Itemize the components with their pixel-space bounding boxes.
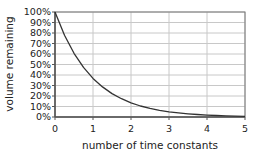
y-tick-label: 60% [20,49,51,59]
y-axis-label: volume remaining [3,4,17,124]
y-tick-label: 90% [20,18,51,28]
y-tick-label: 80% [20,28,51,38]
y-tick-label: 30% [20,81,51,91]
x-tick-label: 2 [123,123,139,134]
y-tick-label: 10% [20,102,51,112]
y-tick-label: 0% [20,112,51,122]
x-tick-label: 4 [199,123,215,134]
y-tick-label: 50% [20,60,51,70]
x-tick-label: 1 [85,123,101,134]
x-tick-label: 0 [47,123,63,134]
y-tick-label: 40% [20,70,51,80]
x-axis-label: number of time constants [55,139,245,151]
x-tick-label: 3 [161,123,177,134]
y-tick-label: 100% [20,7,51,17]
y-tick-label: 70% [20,39,51,49]
y-tick-label: 20% [20,91,51,101]
x-tick-label: 5 [237,123,253,134]
chart: 100%90%80%70%60%50%40%30%20%10%0% 012345… [0,0,263,162]
